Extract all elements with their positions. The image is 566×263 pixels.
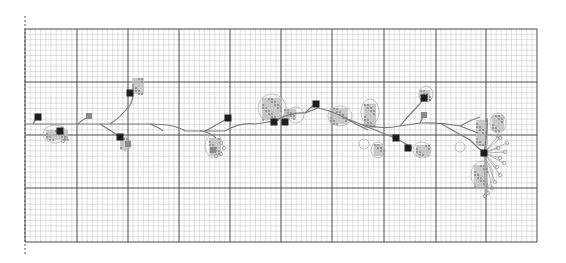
cluster-pixel (218, 150, 220, 152)
mid-node (210, 147, 216, 153)
cluster-pixel (336, 123, 338, 125)
dark-node (117, 134, 124, 141)
cluster-pixel (61, 136, 63, 138)
cluster-pixel (138, 78, 140, 80)
cluster-pixel (345, 120, 347, 122)
dark-node (481, 150, 488, 157)
cluster-pixel (367, 104, 369, 106)
cluster-pixel (280, 110, 282, 112)
cluster-pixel (429, 96, 431, 98)
cluster-pixel (135, 90, 137, 92)
cluster-pixel (370, 122, 372, 124)
cluster-pixel (482, 132, 484, 134)
cluster-pixel (287, 109, 289, 111)
cluster-pixel (209, 141, 211, 143)
cluster-pixel (492, 124, 494, 126)
cluster-pixel (364, 116, 366, 118)
dark-node (127, 90, 134, 97)
cluster-pixel (262, 104, 264, 106)
dark-node (282, 119, 289, 126)
cluster-pixel (49, 136, 51, 138)
cluster-pixel (370, 110, 372, 112)
mid-node (421, 112, 427, 118)
cluster-pixel (46, 136, 48, 138)
cluster-pixel (120, 147, 122, 149)
cluster-pixel (476, 138, 478, 140)
cluster-pixel (482, 129, 484, 131)
cluster-pixel (373, 113, 375, 115)
dark-node (393, 135, 400, 142)
cluster-pixel (364, 104, 366, 106)
cluster-pixel (495, 115, 497, 117)
cluster-pixel (367, 119, 369, 121)
cluster-pixel (482, 144, 484, 146)
cluster-pixel (277, 107, 279, 109)
cluster-pixel (293, 115, 295, 117)
cluster-pixel (141, 78, 143, 80)
cluster-pixel (280, 107, 282, 109)
cluster-pixel (476, 123, 478, 125)
cluster-pixel (425, 145, 427, 147)
cluster-pixel (271, 113, 273, 115)
cluster-pixel (380, 147, 382, 149)
cluster-pixel (477, 174, 479, 176)
cluster-pixel (364, 119, 366, 121)
cluster-pixel (501, 121, 503, 123)
cluster-pixel (141, 93, 143, 95)
cluster-pixel (420, 90, 422, 92)
cluster-pixel (479, 141, 481, 143)
cluster-pixel (367, 107, 369, 109)
cluster-pixel (480, 177, 482, 179)
cluster-pixel (479, 129, 481, 131)
cluster-pixel (498, 130, 500, 132)
dark-node (405, 145, 412, 152)
cluster-pixel (423, 90, 425, 92)
node-bubble (455, 142, 465, 152)
cluster-pixel (330, 120, 332, 122)
cluster-pixel (377, 144, 379, 146)
cluster-pixel (274, 101, 276, 103)
cluster-pixel (265, 110, 267, 112)
cluster-pixel (141, 81, 143, 83)
cluster-pixel (501, 118, 503, 120)
cluster-pixel (419, 154, 421, 156)
cluster-pixel (132, 84, 134, 86)
cluster-pixel (138, 93, 140, 95)
cluster-pixel (333, 123, 335, 125)
cluster-pixel (428, 145, 430, 147)
branch-edge (360, 124, 395, 138)
cluster-pixel (419, 151, 421, 153)
cluster-pixel (429, 99, 431, 101)
cluster-pixel (212, 144, 214, 146)
cluster-pixel (277, 104, 279, 106)
cluster-pixel (49, 139, 51, 141)
cluster-pixel (271, 98, 273, 100)
cluster-pixel (492, 127, 494, 129)
cluster-pixel (218, 138, 220, 140)
dark-node (271, 119, 278, 126)
cluster-pixel (479, 144, 481, 146)
cluster-pixel (480, 165, 482, 167)
cluster-pixel (287, 112, 289, 114)
cluster-pixel (474, 186, 476, 188)
cluster-pixel (476, 141, 478, 143)
cluster-pixel (268, 98, 270, 100)
dark-node (421, 95, 428, 102)
cluster-pixel (428, 148, 430, 150)
cluster-pixel (370, 107, 372, 109)
cluster-pixel (265, 107, 267, 109)
cluster-pixel (333, 120, 335, 122)
cluster-pixel (290, 115, 292, 117)
cluster-pixel (126, 138, 128, 140)
cluster-pixel (336, 108, 338, 110)
cluster-pixel (367, 122, 369, 124)
cluster-pixel (342, 114, 344, 116)
cluster-pixel (135, 87, 137, 89)
cluster-pixel (373, 110, 375, 112)
cluster-pixel (293, 118, 295, 120)
dark-node (225, 115, 232, 122)
dark-node (313, 101, 320, 108)
cluster-pixel (383, 153, 385, 155)
cluster-pixel (422, 154, 424, 156)
cluster-pixel (383, 150, 385, 152)
